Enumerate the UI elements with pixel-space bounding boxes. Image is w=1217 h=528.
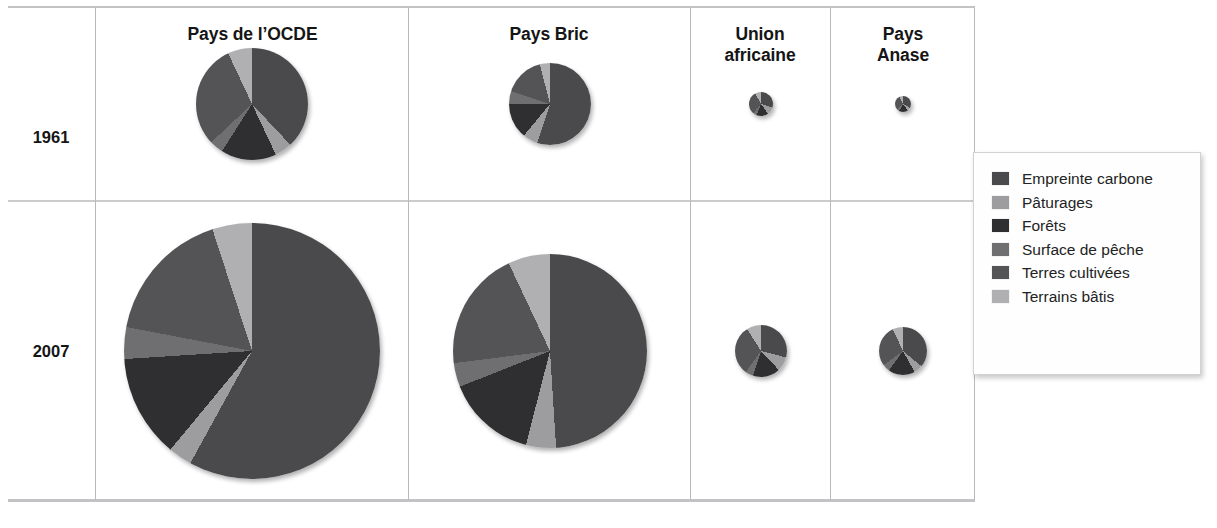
pie-cell-1961-union-africaine [691,8,830,200]
pie-chart-2007-anase [879,327,927,375]
legend-label-terrains-batis: Terrains bâtis [1022,289,1114,305]
pie-chart-1961-ocde [196,48,308,160]
pie-cell-1961-anase [831,8,974,200]
pie-chart-1961-bric [509,63,591,145]
legend-label-terres-cultivees: Terres cultivées [1022,265,1130,281]
pie-chart-2007-union-africaine [735,325,787,377]
legend-label-surface-de-peche: Surface de pêche [1022,242,1144,258]
legend-swatch-paturages [992,196,1009,209]
legend-swatch-terres-cultivees [992,266,1009,279]
row-header-1961: 1961 [10,128,92,147]
pie-chart-1961-union-africaine [749,92,773,116]
legend-swatch-forets [992,219,1009,232]
legend-item: Terres cultivées [992,261,1184,285]
legend-item: Empreinte carbone [992,167,1184,191]
legend: Empreinte carbone Pâturages Forêts Surfa… [973,152,1201,375]
legend-swatch-terrains-batis [992,290,1009,303]
figure-canvas: Pays de l’OCDE Pays Bric Union africaine… [0,0,1217,528]
pie-cell-2007-anase [831,202,974,499]
legend-label-forets: Forêts [1022,218,1066,234]
legend-item: Pâturages [992,191,1184,215]
legend-item: Terrains bâtis [992,285,1184,309]
legend-swatch-empreinte-carbone [992,172,1009,185]
pie-cell-2007-union-africaine [691,202,830,499]
pie-cell-2007-ocde [96,202,408,499]
pie-chart-2007-ocde [124,223,380,479]
pie-cell-2007-bric [409,202,690,499]
legend-label-empreinte-carbone: Empreinte carbone [1022,171,1153,187]
row-header-2007: 2007 [10,342,92,361]
legend-item: Surface de pêche [992,238,1184,262]
pie-chart-2007-bric [453,254,647,448]
pie-chart-1961-anase [895,96,911,112]
legend-swatch-surface-de-peche [992,243,1009,256]
legend-item: Forêts [992,214,1184,238]
pie-cell-1961-ocde [96,8,408,200]
pie-cell-1961-bric [409,8,690,200]
legend-label-paturages: Pâturages [1022,195,1093,211]
